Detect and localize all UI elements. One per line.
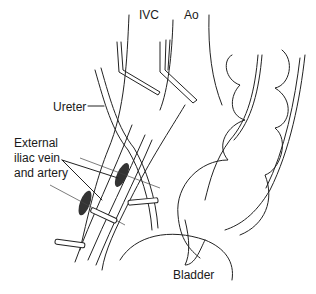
label-bladder: Bladder — [173, 268, 214, 282]
label-ao: Ao — [184, 8, 199, 22]
label-iliac-1: External — [14, 136, 58, 150]
colon-outline-right — [240, 50, 289, 235]
iliac-vessel-4 — [102, 105, 185, 270]
colon-outline-left — [178, 55, 245, 258]
anatomy-figure: IVC Ao Ureter External iliac vein and ar… — [0, 0, 316, 294]
iliac-vessel-1 — [88, 135, 145, 260]
clamp-2 — [128, 198, 158, 206]
sigmoid-tip — [185, 220, 205, 265]
label-iliac-3: and artery — [14, 166, 68, 180]
ivc-right-wall — [160, 20, 173, 110]
clamp-3 — [55, 239, 85, 248]
colon-taenia-inner — [234, 55, 262, 140]
mesentery-edge — [225, 55, 305, 230]
label-ivc: IVC — [139, 8, 159, 22]
ureter-left — [95, 70, 152, 230]
label-ureter: Ureter — [53, 100, 86, 114]
iliac-vessel-3 — [75, 125, 132, 262]
aorta-wall — [209, 15, 222, 105]
label-iliac-2: iliac vein — [14, 151, 60, 165]
